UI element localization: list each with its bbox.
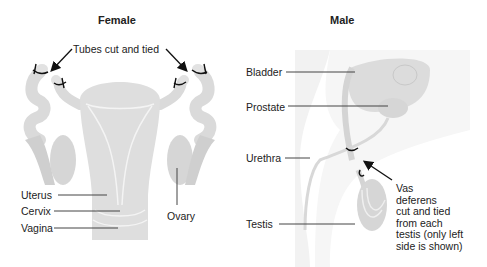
label-vas-deferens-note: Vas deferens cut and tied from each test… <box>396 183 463 252</box>
sterilization-diagram: Female Tubes cut and tied Uterus Cervix … <box>0 0 487 267</box>
label-tubes-cut-and-tied: Tubes cut and tied <box>73 43 159 55</box>
label-uterus: Uterus <box>21 189 52 201</box>
vas-note-line: cut and tied <box>396 206 463 218</box>
label-ovary: Ovary <box>167 210 195 222</box>
label-vagina: Vagina <box>21 222 53 234</box>
label-cervix: Cervix <box>21 205 51 217</box>
female-title: Female <box>98 14 136 26</box>
label-prostate: Prostate <box>246 101 285 113</box>
male-title: Male <box>330 14 354 26</box>
label-testis: Testis <box>246 218 273 230</box>
label-urethra: Urethra <box>246 152 281 164</box>
label-bladder: Bladder <box>246 66 282 78</box>
vas-note-line: side is shown) <box>396 241 463 253</box>
vas-note-line: Vas <box>396 183 463 195</box>
vas-note-line: testis (only left <box>396 229 463 241</box>
